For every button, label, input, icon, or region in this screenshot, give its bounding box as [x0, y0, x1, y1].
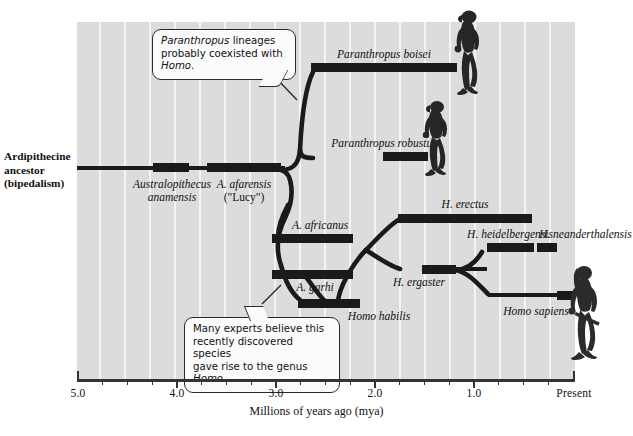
branch-to-erectus: [366, 219, 400, 250]
label-afarensis: A. afarensis ("Lucy"): [217, 178, 272, 204]
label-habilis: Homo habilis: [348, 310, 410, 323]
bar-heidelbergensis: [487, 243, 534, 252]
label-africanus: A. africanus: [292, 219, 348, 232]
bar-garhi: [272, 270, 353, 279]
label-erectus: H. erectus: [442, 198, 489, 211]
label-boisei: Paranthropus boisei: [337, 48, 431, 61]
label-ergaster: H. ergaster: [393, 276, 445, 289]
axis-cap-right: [573, 371, 575, 382]
hominin-figure-sapiens: [560, 262, 612, 362]
tick-label-4: 4.0: [170, 387, 185, 399]
bar-habilis: [298, 299, 360, 308]
tick-label-2: 2.0: [368, 387, 383, 399]
root-ancestor-label: Ardipithecine ancestor (bipedalism): [4, 150, 76, 191]
hominin-phylogeny-figure: Australopithecus anamensis A. afarensis …: [0, 0, 633, 436]
branch-robustus: [300, 150, 313, 158]
label-anamensis: Australopithecus anamensis: [133, 178, 211, 204]
root-trunk: [77, 166, 155, 170]
axis-cap-left: [77, 371, 79, 382]
branch-boisei: [300, 72, 313, 150]
bar-africanus: [272, 234, 353, 243]
hominin-figure-robustus: [417, 98, 457, 178]
bar-erectus: [398, 214, 532, 223]
branch-to-sapiens: [455, 270, 488, 294]
tick-label-3: 3.0: [269, 387, 284, 399]
label-garhi: A. garhi: [296, 281, 334, 294]
tick-label-present: Present: [556, 387, 591, 399]
x-axis-title: Millions of years ago (mya): [0, 404, 633, 419]
line-ergaster-lead: [453, 267, 487, 271]
hominin-figure-boisei: [448, 8, 490, 98]
tick-label-5: 5.0: [71, 387, 86, 399]
tick-label-1: 1.0: [467, 387, 482, 399]
label-neanderthalensis: H. neanderthalensis: [539, 228, 632, 241]
bar-afarensis: [207, 163, 281, 172]
bar-anamensis: [153, 163, 189, 172]
branch-to-ergaster: [366, 250, 400, 269]
bar-neanderthalensis: [537, 243, 557, 252]
trunk-gap-segment: [188, 166, 209, 170]
bar-ergaster: [422, 265, 456, 274]
line-sapiens-lead: [488, 293, 558, 297]
bar-boisei: [311, 63, 457, 72]
label-sapiens: Homo sapiens: [503, 305, 569, 318]
